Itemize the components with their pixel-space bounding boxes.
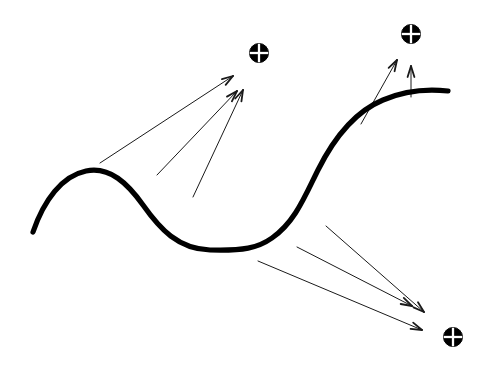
diagram-svg: [0, 0, 491, 380]
target-lower-right: [444, 328, 463, 347]
target-upper-left: [250, 44, 269, 63]
background: [0, 0, 491, 380]
target-upper-right: [402, 25, 421, 44]
diagram-canvas: [0, 0, 491, 380]
